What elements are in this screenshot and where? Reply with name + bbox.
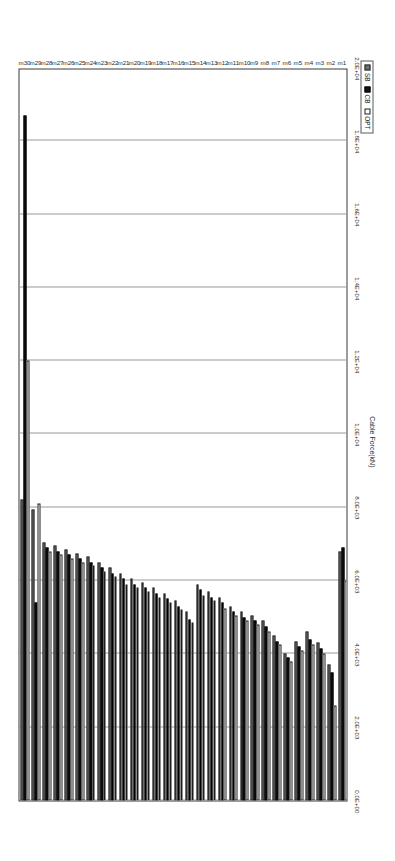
bar-m10-sb[interactable] [240, 611, 243, 800]
bar-m5-cb[interactable] [297, 646, 300, 800]
bar-m6-cb[interactable] [286, 657, 289, 800]
bar-m7-opt[interactable] [278, 644, 281, 800]
bar-m23-opt[interactable] [103, 571, 106, 800]
category-label-m8: m8 [260, 40, 270, 66]
bar-m7-cb[interactable] [275, 641, 278, 800]
category-label-m28: m28 [40, 40, 50, 66]
bar-m2-sb[interactable] [327, 664, 330, 800]
bar-m8-sb[interactable] [261, 620, 264, 800]
bar-m23-sb[interactable] [97, 562, 100, 800]
legend-item-cb[interactable]: CB [363, 86, 370, 103]
bar-m26-opt[interactable] [70, 558, 73, 800]
bar-group-m16 [173, 69, 184, 800]
bar-group-m4 [304, 69, 315, 800]
bar-m20-cb[interactable] [133, 584, 136, 800]
bar-m9-sb[interactable] [250, 615, 253, 800]
bar-m18-opt[interactable] [158, 597, 161, 800]
bar-m20-sb[interactable] [130, 578, 133, 800]
bar-m13-cb[interactable] [210, 597, 213, 800]
bar-m3-opt[interactable] [322, 653, 325, 800]
bar-m18-cb[interactable] [155, 593, 158, 800]
category-label-text: m7 [271, 57, 280, 67]
chart-legend[interactable]: SBCBOPT [360, 60, 373, 133]
bar-m8-opt[interactable] [267, 631, 270, 800]
bar-m7-sb[interactable] [272, 635, 275, 800]
bar-m24-sb[interactable] [86, 556, 89, 800]
bar-m13-sb[interactable] [207, 591, 210, 800]
bar-m11-opt[interactable] [234, 615, 237, 800]
bar-m1-sb[interactable] [338, 551, 341, 800]
bar-m11-sb[interactable] [229, 606, 232, 800]
bar-m11-cb[interactable] [232, 611, 235, 800]
bar-m17-sb[interactable] [163, 593, 166, 800]
bar-m24-cb[interactable] [89, 562, 92, 800]
bar-m16-opt[interactable] [180, 609, 183, 800]
bar-m26-cb[interactable] [67, 554, 70, 800]
bar-m5-sb[interactable] [294, 641, 297, 800]
bar-m6-opt[interactable] [289, 661, 292, 800]
bar-m26-sb[interactable] [64, 549, 67, 800]
bar-m22-cb[interactable] [111, 573, 114, 800]
bar-m30-cb[interactable] [23, 115, 26, 800]
bar-m2-cb[interactable] [330, 672, 333, 800]
bar-m6-sb[interactable] [283, 653, 286, 800]
bar-m3-cb[interactable] [319, 648, 322, 800]
bar-m19-sb[interactable] [141, 582, 144, 800]
bar-m12-sb[interactable] [218, 597, 221, 800]
bar-m30-opt[interactable] [26, 360, 29, 800]
bar-m29-opt[interactable] [37, 503, 40, 800]
bar-m30-sb[interactable] [20, 499, 23, 800]
bar-m10-cb[interactable] [242, 617, 245, 800]
bar-m19-opt[interactable] [147, 591, 150, 800]
bar-m14-cb[interactable] [199, 589, 202, 800]
bar-m4-opt[interactable] [311, 644, 314, 800]
bar-m29-sb[interactable] [31, 509, 34, 800]
bar-m14-opt[interactable] [202, 595, 205, 800]
bar-m12-cb[interactable] [221, 602, 224, 800]
bar-m1-cb[interactable] [341, 547, 344, 800]
bar-m15-opt[interactable] [191, 622, 194, 800]
bar-m15-cb[interactable] [188, 619, 191, 800]
bar-m13-opt[interactable] [213, 600, 216, 800]
bar-m21-cb[interactable] [122, 578, 125, 800]
legend-item-sb[interactable]: SB [363, 64, 370, 81]
bar-m28-opt[interactable] [48, 551, 51, 800]
bar-m2-opt[interactable] [333, 705, 336, 800]
bar-m25-opt[interactable] [81, 562, 84, 800]
bar-m10-opt[interactable] [245, 620, 248, 800]
bar-m22-opt[interactable] [114, 576, 117, 800]
bar-m25-sb[interactable] [75, 553, 78, 800]
bar-m9-cb[interactable] [253, 620, 256, 800]
bar-m16-cb[interactable] [177, 606, 180, 800]
bar-m4-sb[interactable] [305, 631, 308, 800]
bar-m23-cb[interactable] [100, 567, 103, 800]
bar-m21-sb[interactable] [119, 573, 122, 800]
legend-item-opt[interactable]: OPT [363, 108, 370, 129]
bar-m18-sb[interactable] [152, 587, 155, 800]
bar-m21-opt[interactable] [125, 584, 128, 800]
bar-m27-opt[interactable] [59, 554, 62, 800]
bar-m17-cb[interactable] [166, 598, 169, 800]
bar-m17-opt[interactable] [169, 602, 172, 800]
bar-m1-opt[interactable] [344, 580, 347, 800]
bar-m28-sb[interactable] [42, 542, 45, 800]
bar-m20-opt[interactable] [136, 587, 139, 800]
bar-m19-cb[interactable] [144, 587, 147, 800]
bar-m12-opt[interactable] [223, 608, 226, 800]
bar-m15-sb[interactable] [185, 611, 188, 800]
bar-m28-cb[interactable] [45, 547, 48, 800]
bar-m4-cb[interactable] [308, 639, 311, 800]
bar-m27-cb[interactable] [56, 551, 59, 800]
bar-m8-cb[interactable] [264, 626, 267, 800]
category-label-m17: m17 [161, 40, 171, 66]
bar-m5-opt[interactable] [300, 650, 303, 800]
bar-m24-opt[interactable] [92, 565, 95, 800]
bar-m3-sb[interactable] [316, 642, 319, 800]
bar-m14-sb[interactable] [196, 584, 199, 800]
bar-m25-cb[interactable] [78, 558, 81, 800]
bar-m16-sb[interactable] [174, 600, 177, 800]
bar-m9-opt[interactable] [256, 624, 259, 800]
bar-m27-sb[interactable] [53, 545, 56, 800]
bar-m22-sb[interactable] [108, 567, 111, 800]
bar-m29-cb[interactable] [34, 602, 37, 800]
